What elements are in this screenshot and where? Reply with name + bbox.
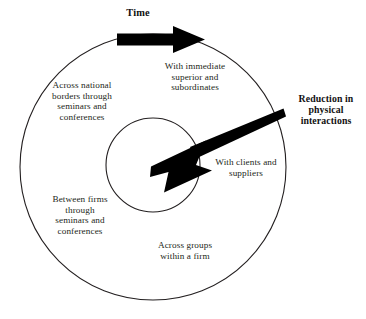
diagram-canvas: Time With immediate superior and subordi… [0, 0, 366, 319]
label-with-immediate-superior: With immediate superior and subordinates [143, 61, 247, 93]
time-arrow [117, 26, 205, 53]
label-with-clients-and-suppliers: With clients and suppliers [198, 157, 294, 178]
diagram-graphics [0, 0, 366, 319]
label-between-firms: Between firms through seminars and confe… [30, 194, 130, 236]
label-reduction-in-physical-interactions: Reduction in physical interactions [286, 93, 366, 127]
label-across-groups-within-a-firm: Across groups within a firm [133, 240, 237, 261]
label-time: Time [108, 8, 168, 19]
label-across-national-borders: Across national borders through seminars… [28, 80, 136, 122]
